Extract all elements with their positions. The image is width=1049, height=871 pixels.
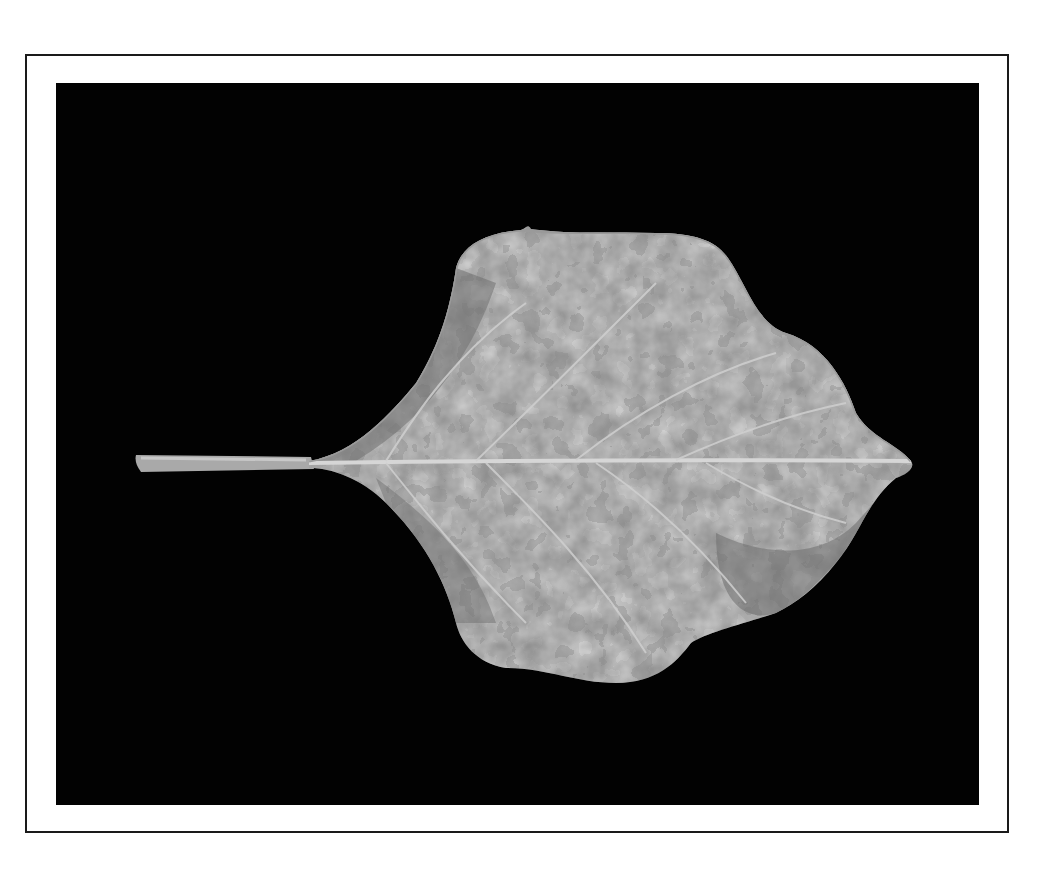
leaf-photograph (56, 83, 979, 805)
leaf-blade (296, 213, 936, 703)
figure-frame (25, 54, 1009, 833)
leaf-illustration (56, 83, 979, 805)
